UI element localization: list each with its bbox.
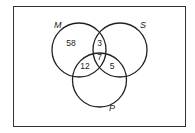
region-m-p: 12 <box>80 61 90 71</box>
circle-s <box>93 23 147 77</box>
venn-diagram: M S P 58 3 7 12 5 <box>0 0 195 133</box>
region-s-p: 5 <box>110 61 115 71</box>
region-m-s-p: 7 <box>97 52 102 62</box>
circle-m <box>52 23 106 77</box>
diagram-frame <box>14 7 186 127</box>
region-m-s: 3 <box>97 38 102 48</box>
set-label-p: P <box>109 103 115 113</box>
region-m-only: 58 <box>66 38 76 48</box>
set-label-s: S <box>140 20 146 30</box>
set-label-m: M <box>54 20 62 30</box>
